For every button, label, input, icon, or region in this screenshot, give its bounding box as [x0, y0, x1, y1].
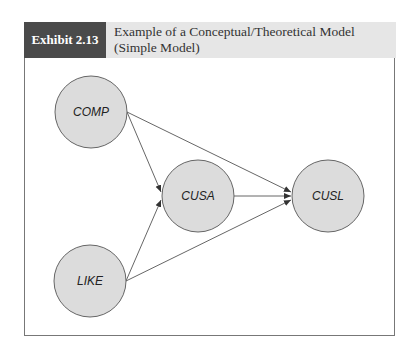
edge-like-cusa	[126, 200, 161, 281]
node-cusa-label: CUSA	[181, 189, 214, 203]
edge-comp-cusa	[127, 112, 161, 192]
path-model-diagram: COMP CUSA CUSL LIKE	[0, 0, 415, 352]
node-cusl-label: CUSL	[312, 189, 344, 203]
node-like-label: LIKE	[77, 274, 104, 288]
node-comp-label: COMP	[73, 105, 109, 119]
